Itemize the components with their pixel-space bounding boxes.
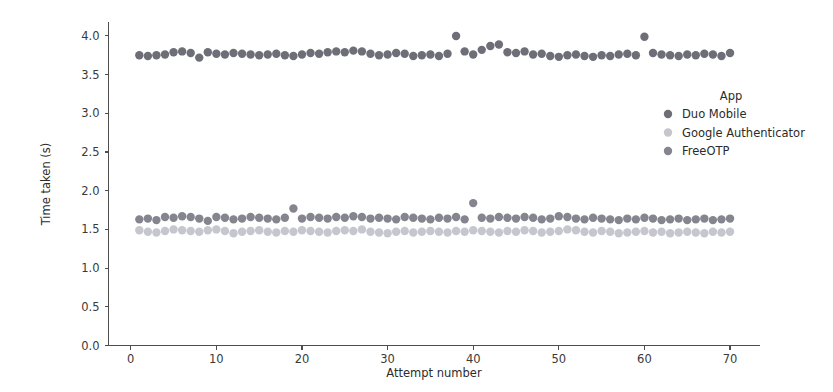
data-point: [135, 51, 143, 59]
data-point: [426, 50, 434, 58]
data-point: [178, 212, 186, 220]
data-point: [640, 33, 648, 41]
data-point: [512, 214, 520, 222]
data-point: [161, 50, 169, 58]
data-point: [383, 229, 391, 237]
data-point: [161, 227, 169, 235]
legend-label: Google Authenticator: [682, 126, 805, 140]
data-point: [615, 216, 623, 224]
data-point: [520, 226, 528, 234]
data-point: [572, 214, 580, 222]
data-point: [212, 213, 220, 221]
data-point: [401, 50, 409, 58]
data-point: [640, 214, 648, 222]
y-tick-label: 1.5: [81, 222, 99, 236]
data-point: [152, 51, 160, 59]
data-point: [486, 228, 494, 236]
data-point: [161, 213, 169, 221]
data-point: [709, 228, 717, 236]
data-point: [341, 226, 349, 234]
y-axis-tick-labels: 0.00.51.01.52.02.53.03.54.0: [81, 29, 99, 353]
data-point: [315, 228, 323, 236]
data-point: [383, 50, 391, 58]
data-point: [426, 227, 434, 235]
data-point: [555, 53, 563, 61]
data-point: [615, 50, 623, 58]
data-point: [683, 50, 691, 58]
data-point: [443, 50, 451, 58]
y-tick-label: 0.5: [81, 300, 99, 314]
data-point: [469, 50, 477, 58]
data-point: [700, 229, 708, 237]
data-point: [323, 214, 331, 222]
data-point: [452, 32, 460, 40]
data-point: [409, 52, 417, 60]
data-point: [375, 214, 383, 222]
data-point: [152, 216, 160, 224]
data-point: [717, 228, 725, 236]
data-point: [700, 214, 708, 222]
data-point: [169, 225, 177, 233]
data-point: [649, 49, 657, 57]
data-point: [537, 228, 545, 236]
x-tick-label: 0: [127, 352, 134, 366]
data-point: [597, 51, 605, 59]
data-point: [246, 50, 254, 58]
x-tick-label: 20: [295, 352, 310, 366]
data-point: [717, 52, 725, 60]
data-point: [452, 227, 460, 235]
data-point: [537, 215, 545, 223]
data-point: [503, 214, 511, 222]
data-point: [572, 50, 580, 58]
data-point: [572, 226, 580, 234]
data-point: [289, 204, 297, 212]
legend-marker: [664, 110, 672, 118]
data-point: [692, 51, 700, 59]
data-point: [717, 215, 725, 223]
data-point: [426, 215, 434, 223]
data-point: [272, 215, 280, 223]
data-point: [281, 214, 289, 222]
data-point: [323, 48, 331, 56]
data-point: [409, 228, 417, 236]
data-point: [632, 228, 640, 236]
data-point: [298, 226, 306, 234]
data-point: [657, 228, 665, 236]
axis-spines: [109, 22, 761, 346]
data-point: [546, 228, 554, 236]
data-point: [238, 228, 246, 236]
legend-title: App: [720, 89, 742, 103]
data-point: [195, 53, 203, 61]
data-point: [289, 228, 297, 236]
data-point: [478, 214, 486, 222]
data-point: [443, 228, 451, 236]
data-point: [546, 52, 554, 60]
data-point: [495, 40, 503, 48]
data-point: [332, 227, 340, 235]
y-tick-label: 2.5: [81, 145, 99, 159]
data-point: [512, 228, 520, 236]
data-point: [460, 47, 468, 55]
x-tick-label: 40: [466, 352, 481, 366]
data-point: [674, 52, 682, 60]
data-point: [478, 227, 486, 235]
data-point: [700, 50, 708, 58]
scatter-plot-figure: 010203040506070 0.00.51.01.52.02.53.03.5…: [0, 0, 833, 392]
data-point: [606, 228, 614, 236]
data-point: [580, 52, 588, 60]
data-point: [692, 215, 700, 223]
data-point: [135, 215, 143, 223]
data-point: [246, 213, 254, 221]
data-point: [264, 228, 272, 236]
data-point: [563, 213, 571, 221]
data-point: [632, 215, 640, 223]
y-tick-label: 1.0: [81, 261, 99, 275]
x-axis-title: Attempt number: [386, 366, 482, 380]
series-duo-mobile: [135, 32, 734, 62]
data-point: [341, 48, 349, 56]
legend-marker: [664, 128, 672, 136]
data-point: [289, 52, 297, 60]
data-point: [306, 213, 314, 221]
data-point: [315, 214, 323, 222]
plot-canvas: 010203040506070 0.00.51.01.52.02.53.03.5…: [0, 0, 833, 392]
